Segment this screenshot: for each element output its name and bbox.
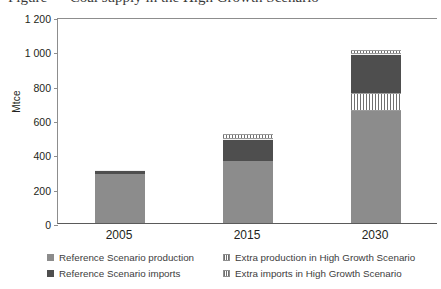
- x-axis-tick-label: 2015: [202, 228, 292, 242]
- y-axis-tick-mark: [54, 156, 58, 157]
- bar-segment-imp: [351, 54, 401, 93]
- y-axis-tick-label: 0: [0, 219, 58, 231]
- bar-segment-ximp: [223, 134, 273, 139]
- legend-swatch-icon: [223, 254, 230, 261]
- y-axis-tick-mark: [54, 53, 58, 54]
- bar-segment-imp: [95, 170, 145, 174]
- bar-segment-imp: [223, 139, 273, 161]
- y-axis-tick-mark: [54, 191, 58, 192]
- legend-swatch-icon: [47, 270, 54, 277]
- legend-item: Reference Scenario imports: [47, 268, 223, 279]
- x-axis-tick-label: 2005: [74, 228, 164, 242]
- y-axis-tick-label: 600: [0, 116, 58, 128]
- figure-title-strip: Figure — Coal supply in the High Growth …: [0, 0, 441, 9]
- x-axis-tick-label: 2030: [330, 228, 420, 242]
- legend-label: Extra production in High Growth Scenario: [235, 252, 415, 263]
- y-axis-tick-label: 200: [0, 185, 58, 197]
- plot-area: 1 2001 0008006004002000: [57, 18, 437, 224]
- y-axis-tick-label: 800: [0, 82, 58, 94]
- legend-item: Extra production in High Growth Scenario: [223, 252, 439, 263]
- y-axis-tick-label: 1 200: [0, 13, 58, 25]
- chart-container: Figure — Coal supply in the High Growth …: [0, 0, 441, 289]
- y-axis-tick-mark: [54, 88, 58, 89]
- legend-swatch-icon: [223, 270, 230, 277]
- y-axis-tick-label: 1 000: [0, 47, 58, 59]
- bar-segment-ximp: [351, 50, 401, 54]
- y-axis-tick-mark: [54, 225, 58, 226]
- legend-item: Reference Scenario production: [47, 252, 223, 263]
- bar-2015: [223, 134, 273, 223]
- legend-label: Reference Scenario imports: [59, 268, 180, 279]
- bar-2005: [95, 170, 145, 223]
- legend-swatch-icon: [47, 254, 54, 261]
- y-axis-tick-label: 400: [0, 150, 58, 162]
- bar-segment-prod: [351, 111, 401, 223]
- legend-label: Reference Scenario production: [59, 252, 194, 263]
- bar-segment-prod: [223, 161, 273, 223]
- chart-legend: Reference Scenario productionExtra produ…: [47, 252, 439, 279]
- bar-segment-xprod: [351, 93, 401, 111]
- legend-item: Extra imports in High Growth Scenario: [223, 268, 439, 279]
- legend-label: Extra imports in High Growth Scenario: [235, 268, 402, 279]
- y-axis-tick-mark: [54, 122, 58, 123]
- y-axis-tick-mark: [54, 19, 58, 20]
- bar-2030: [351, 50, 401, 223]
- figure-title: Figure — Coal supply in the High Growth …: [8, 0, 319, 6]
- bar-segment-prod: [95, 174, 145, 223]
